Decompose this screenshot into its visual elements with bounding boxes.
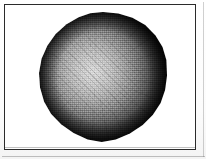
scan-edge-right	[203, 2, 204, 157]
shaded-sphere-body	[39, 12, 167, 142]
sphere-figure	[39, 12, 167, 142]
figure-frame	[4, 4, 196, 150]
figure-root	[0, 0, 206, 159]
frame-inner-rule	[5, 147, 195, 148]
scan-edge-bottom	[2, 156, 205, 157]
sphere-dark-rim	[39, 12, 167, 142]
